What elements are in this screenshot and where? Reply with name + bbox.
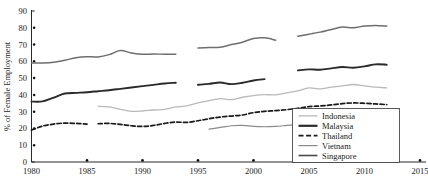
y-tick-label: 70 [19, 40, 28, 50]
series-line-malaysia [298, 64, 387, 70]
line-chart: 0102030405060708090198019851990199520002… [0, 0, 428, 187]
x-tick-label: 2005 [301, 166, 318, 176]
series-singapore [32, 25, 387, 63]
series-line-thailand [32, 123, 88, 130]
x-tick-mark [252, 159, 255, 162]
y-tick-label: 90 [19, 6, 28, 16]
legend-label-vietnam: Vietnam [322, 141, 351, 151]
series-line-singapore [198, 38, 276, 48]
y-tick-label: 40 [19, 90, 28, 100]
y-tick-label: 60 [19, 56, 28, 66]
x-tick-mark [197, 159, 200, 162]
y-tick-label: 10 [19, 140, 28, 150]
legend-label-thailand: Thailand [322, 131, 353, 141]
legend-label-malaysia: Malaysia [322, 121, 353, 131]
x-tick-label: 2010 [356, 166, 373, 176]
x-tick-mark [419, 159, 422, 162]
series-line-malaysia [32, 83, 176, 102]
y-tick-mark [33, 77, 36, 80]
y-tick-mark [33, 60, 36, 63]
x-tick-label: 1995 [190, 166, 207, 176]
y-tick-label: 20 [19, 123, 28, 133]
x-tick-label: 1980 [23, 166, 40, 176]
legend-label-indonesia: Indonesia [322, 111, 355, 121]
x-tick-label: 1990 [134, 166, 151, 176]
x-tick-label: 2015 [412, 166, 428, 176]
x-tick-mark [141, 159, 144, 162]
x-tick-label: 2000 [245, 166, 262, 176]
x-tick-mark [86, 159, 89, 162]
y-tick-mark [33, 27, 36, 30]
series-line-malaysia [198, 79, 265, 85]
series-vietnam [209, 124, 298, 129]
y-axis-title: % of Female Employment [2, 41, 12, 131]
series-malaysia [32, 64, 387, 101]
series-line-singapore [32, 51, 176, 63]
y-tick-mark [33, 43, 36, 46]
y-tick-label: 80 [19, 23, 28, 33]
series-line-vietnam [209, 124, 298, 129]
series-line-indonesia [98, 84, 387, 111]
y-tick-label: 30 [19, 107, 28, 117]
chart-canvas: 0102030405060708090198019851990199520002… [0, 0, 428, 187]
chart-legend: IndonesiaMalaysiaThailandVietnamSingapor… [293, 109, 400, 163]
y-tick-label: 50 [19, 73, 28, 83]
legend-label-singapore: Singapore [322, 151, 357, 161]
series-line-singapore [298, 25, 387, 36]
series-indonesia [98, 84, 387, 111]
y-tick-mark [33, 110, 36, 113]
y-tick-mark [33, 144, 36, 147]
y-tick-mark [33, 94, 36, 97]
x-tick-label: 1985 [79, 166, 96, 176]
